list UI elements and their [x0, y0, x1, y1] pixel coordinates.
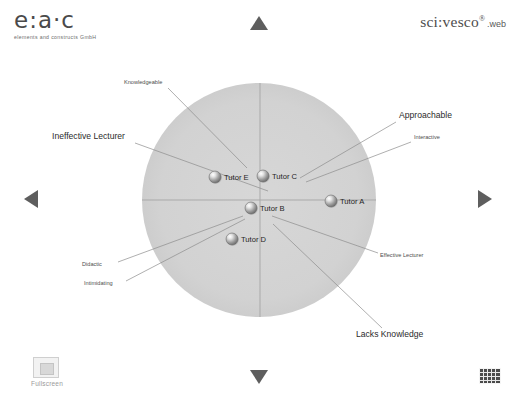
tutor-point-label[interactable]: Tutor E — [224, 173, 249, 182]
tutor-point[interactable]: Tutor B — [245, 202, 285, 215]
annotation-label[interactable]: Approachable — [399, 110, 452, 120]
fullscreen-button[interactable]: Fullscreen — [31, 357, 61, 387]
tutor-point-marker[interactable] — [245, 202, 257, 214]
tutor-point[interactable]: Tutor D — [226, 233, 267, 246]
fullscreen-icon — [33, 357, 59, 378]
annotation-label[interactable]: Intimidating — [84, 280, 113, 286]
tutor-point-label[interactable]: Tutor D — [241, 235, 267, 244]
annotation-label[interactable]: Interactive — [414, 134, 440, 140]
annotation-label[interactable]: Ineffective Lecturer — [52, 131, 125, 141]
plot-canvas[interactable]: KnowledgeableIneffective LecturerApproac… — [0, 0, 520, 407]
tutor-point[interactable]: Tutor E — [209, 171, 249, 184]
repertory-grid-plot[interactable]: KnowledgeableIneffective LecturerApproac… — [0, 0, 520, 407]
tutor-point-marker[interactable] — [226, 233, 238, 245]
tutor-point-marker[interactable] — [257, 170, 269, 182]
tutor-point-label[interactable]: Tutor C — [272, 172, 298, 181]
tutor-point-marker[interactable] — [209, 171, 221, 183]
grid-view-icon[interactable] — [479, 368, 501, 384]
annotation-label[interactable]: Knowledgeable — [124, 79, 162, 85]
tutor-point[interactable]: Tutor A — [325, 195, 365, 208]
annotation-label[interactable]: Effective Lecturer — [380, 252, 424, 258]
scivesco-web-viewer: e:a·c elements and constructs GmbH sci:v… — [0, 0, 520, 407]
tutor-point[interactable]: Tutor C — [257, 170, 298, 183]
tutor-point-label[interactable]: Tutor A — [340, 197, 365, 206]
tutor-point-marker[interactable] — [325, 195, 337, 207]
tutor-point-label[interactable]: Tutor B — [260, 204, 285, 213]
fullscreen-label: Fullscreen — [31, 380, 61, 387]
annotation-label[interactable]: Didactic — [82, 261, 102, 267]
annotation-label[interactable]: Lacks Knowledge — [356, 329, 424, 339]
